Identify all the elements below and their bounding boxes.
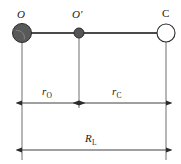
dimension-symbol-r-oxygen: r xyxy=(42,85,46,97)
dimension-subscript-r-carbon: C xyxy=(117,91,122,100)
atom-marker-oxygen xyxy=(13,24,32,43)
dimension-symbol-r-carbon: r xyxy=(112,85,116,97)
dimension-label-r-carbon: rC xyxy=(112,86,121,97)
atom-label-oxygen: O xyxy=(17,9,25,20)
dimension-label-r-oxygen: rO xyxy=(42,86,52,97)
dimension-label-R-length: RL xyxy=(85,133,96,144)
atom-marker-center-of-mass xyxy=(74,28,84,38)
atom-label-carbon: C xyxy=(162,8,169,19)
dimension-subscript-r-oxygen: O xyxy=(47,91,52,100)
atom-marker-carbon xyxy=(157,24,175,42)
dimension-subscript-R-length: L xyxy=(92,138,97,147)
molecular-geometry-figure: O O′ C rO rC RL xyxy=(0,0,181,164)
atom-label-center-of-mass: O′ xyxy=(72,9,82,20)
dimension-symbol-R-length: R xyxy=(85,132,92,144)
